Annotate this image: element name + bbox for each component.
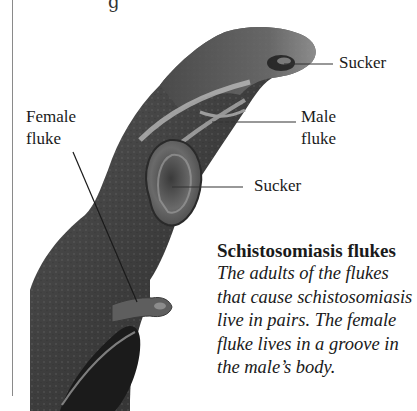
label-female-fluke-line2: fluke bbox=[26, 129, 61, 149]
figure-caption: Schistosomiasis flukes The adults of the… bbox=[217, 240, 417, 380]
label-male-fluke-line2: fluke bbox=[301, 129, 336, 149]
caption-body-line: live in pairs. The female bbox=[217, 309, 417, 333]
caption-body-line: The adults of the flukes bbox=[217, 262, 417, 286]
caption-body-line: the male’s body. bbox=[217, 356, 417, 380]
caption-body-line: that cause schistosomiasis bbox=[217, 286, 417, 310]
label-sucker-top: Sucker bbox=[339, 53, 386, 73]
caption-body-line: fluke lives in a groove in bbox=[217, 333, 417, 357]
label-female-fluke-line1: Female bbox=[26, 107, 76, 127]
label-sucker-middle: Sucker bbox=[254, 176, 301, 196]
label-male-fluke-line1: Male bbox=[301, 107, 336, 127]
caption-title: Schistosomiasis flukes bbox=[217, 240, 417, 262]
